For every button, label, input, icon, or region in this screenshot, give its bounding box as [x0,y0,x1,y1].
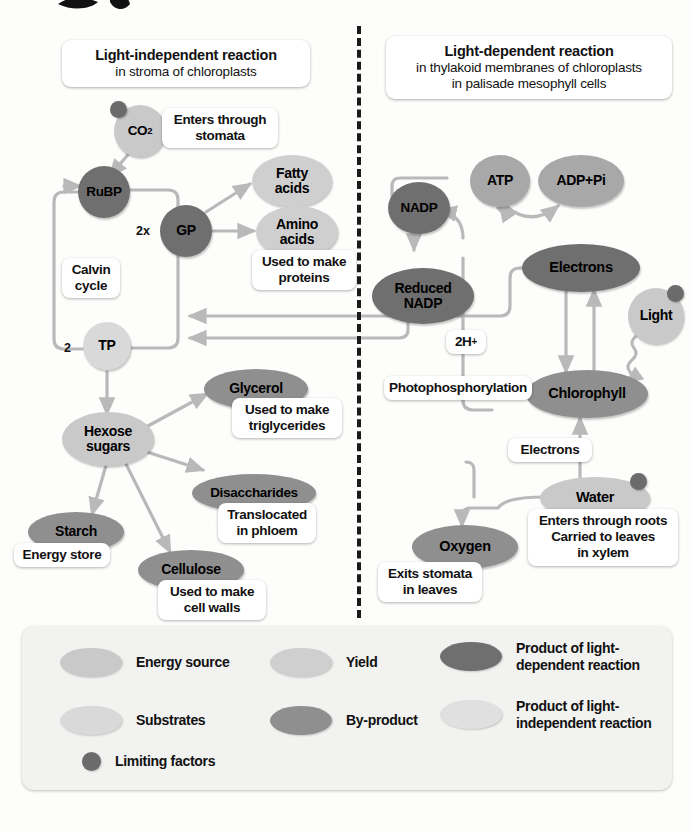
legend-label-yield: Yield [346,654,377,671]
legend-label-light-dependent-product: Product of light- dependent reaction [516,640,640,673]
panel-divider [357,26,361,618]
node-adp-pi: ADP+Pi [538,155,624,207]
callout-disaccharides: Translocated in phloem [218,503,316,543]
right-header-subtitle-2: in palisade mesophyll cells [452,76,606,92]
legend-swatch-byproduct [270,706,332,735]
label-two-h-plus: 2H+ [446,330,486,354]
right-header-title: Light-dependent reaction [444,43,613,60]
callout-cellulose: Used to make cell walls [158,580,266,620]
label-calvin-cycle: Calvin cycle [62,258,120,298]
legend-swatch-energy-source [60,648,122,677]
right-panel-header: Light-dependent reaction in thylakoid me… [386,36,672,99]
node-gp: GP [160,205,212,257]
label-photophosphorylation: Photophosphorylation [384,376,532,400]
node-nadp: NADP [388,182,450,234]
limiting-factor-dot-light [667,285,684,302]
legend-swatch-yield [270,648,332,677]
legend-label-energy-source: Energy source [136,654,229,671]
callout-water: Enters through roots Carried to leaves i… [528,509,678,566]
node-reduced-nadp: Reduced NADP [372,268,474,324]
two-h-text: 2H [455,334,472,350]
node-chlorophyll: Chlorophyll [526,370,648,418]
legend-swatch-limiting-factors [82,752,101,771]
legend-item-light-independent-product: Product of light- independent reaction [440,698,680,731]
legend-item-light-dependent-product: Product of light- dependent reaction [440,640,676,673]
left-panel-header: Light-independent reaction in stroma of … [62,40,310,87]
left-header-subtitle: in stroma of chloroplasts [115,64,256,80]
left-header-title: Light-independent reaction [95,47,277,64]
legend-item-substrates: Substrates [60,706,270,735]
co2-subscript: 2 [147,126,152,136]
node-electrons-top: Electrons [522,244,640,292]
legend-item-limiting-factors: Limiting factors [60,752,300,771]
light-squiggle-arrow [627,336,636,382]
legend-swatch-light-dependent-product [440,642,502,671]
legend: Energy source Yield Product of light- de… [22,626,672,790]
limiting-factor-dot-water [630,473,647,490]
node-rubp: RuBP [78,166,130,218]
legend-label-light-independent-product: Product of light- independent reaction [516,698,652,731]
callout-glycerol: Used to make triglycerides [232,398,342,438]
node-hexose-sugars: Hexose sugars [62,412,154,466]
node-fatty-acids: Fatty acids [252,155,332,207]
legend-label-limiting-factors: Limiting factors [115,753,215,770]
legend-label-substrates: Substrates [136,712,205,729]
limiting-factor-dot-co2 [110,101,127,118]
node-tp: TP [83,322,131,370]
scan-artifact [54,0,164,18]
callout-co2: Enters through stomata [162,108,278,148]
callout-amino-acids: Used to make proteins [252,250,356,290]
node-atp: ATP [470,155,530,207]
legend-swatch-light-independent-product [440,700,502,729]
legend-swatch-substrates [60,706,122,735]
right-header-subtitle-1: in thylakoid membranes of chloroplasts [416,60,642,76]
co2-label: CO [128,124,148,139]
callout-oxygen: Exits stomata in leaves [378,562,482,602]
legend-label-byproduct: By-product [346,712,418,729]
diagram-canvas: Light-independent reaction in stroma of … [0,0,694,831]
legend-item-energy-source: Energy source [60,648,270,677]
tp-multiplier: 2 [64,341,71,355]
two-h-superscript: + [472,336,478,348]
label-electrons: Electrons [508,438,592,462]
gp-multiplier: 2x [136,224,150,238]
legend-item-yield: Yield [270,648,450,677]
legend-item-byproduct: By-product [270,706,460,735]
callout-starch: Energy store [14,543,110,567]
